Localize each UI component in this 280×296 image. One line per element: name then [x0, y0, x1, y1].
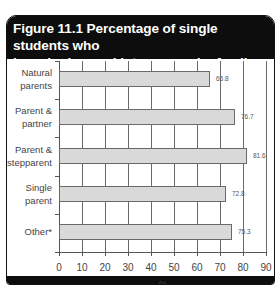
bar-value-label: 81.6: [253, 152, 266, 159]
y-tick: [55, 214, 59, 215]
bar-value-label: 72.8: [232, 190, 245, 197]
y-tick: [55, 252, 59, 253]
bar: [59, 71, 210, 87]
category-label-line: Parent &: [15, 104, 52, 117]
x-tick-label: 0: [56, 262, 62, 273]
category-label-line: stepparent: [7, 156, 52, 169]
y-tick: [55, 137, 59, 138]
category-label-line: Other*: [25, 225, 52, 238]
category-label-line: Single: [25, 181, 52, 194]
bar-value-label: 76.7: [241, 113, 254, 120]
x-tick-label: 70: [214, 262, 225, 273]
x-tick-label: 10: [76, 262, 87, 273]
category-label-line: parent: [25, 194, 52, 207]
category-label: Naturalparents: [20, 66, 52, 92]
chart-title-line-1: Figure 11.1 Percentage of single student…: [13, 20, 274, 54]
category-label-line: parents: [20, 79, 52, 92]
x-tick-label: 30: [122, 262, 133, 273]
x-axis: [55, 252, 267, 253]
plot-area: 65.876.781.672.875.3: [59, 61, 269, 252]
figure-frame: Figure 11.1 Percentage of single student…: [6, 15, 275, 285]
category-label: Other*: [25, 225, 52, 238]
bar: [59, 148, 247, 164]
y-tick: [55, 99, 59, 100]
bar: [59, 186, 226, 202]
footer-bar: [7, 276, 274, 284]
bar-value-label: 75.3: [238, 228, 251, 235]
y-tick: [55, 176, 59, 177]
category-label-line: partner: [15, 117, 52, 130]
x-tick-label: 60: [191, 262, 202, 273]
x-tick-label: 20: [99, 262, 110, 273]
chart-title: Figure 11.1 Percentage of single student…: [7, 16, 274, 59]
y-tick: [55, 61, 59, 62]
category-label-line: Parent &: [7, 143, 52, 156]
bar-value-label: 65.8: [216, 75, 229, 82]
category-label-line: Natural: [20, 66, 52, 79]
category-label: Parent &stepparent: [7, 143, 52, 169]
bar: [59, 109, 235, 125]
category-label: Parent &partner: [15, 104, 52, 130]
x-tick-label: 80: [237, 262, 248, 273]
x-tick-label: 90: [260, 262, 271, 273]
x-axis-label: %: [159, 279, 167, 285]
gridline: [266, 61, 267, 252]
bar: [59, 224, 232, 240]
category-label: Singleparent: [25, 181, 52, 207]
x-tick-label: 40: [145, 262, 156, 273]
x-tick-label: 50: [168, 262, 179, 273]
